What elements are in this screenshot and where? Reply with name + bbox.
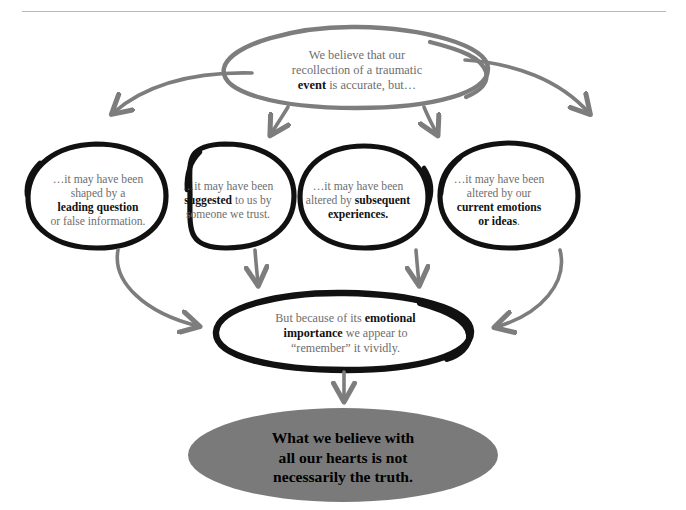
arrow-subsequent-to-convergence: [416, 250, 419, 284]
arrow-to-suggested: [271, 107, 288, 134]
branch-node-4-ellipse: [440, 143, 578, 248]
arrow-leading-question-to-convergence: [117, 250, 198, 326]
top-node-ellipse: [224, 27, 488, 108]
diagram-canvas: We believe that our recollection of a tr…: [0, 0, 686, 510]
branch-node-2-ellipse: [187, 144, 294, 248]
arrow-suggested-to-convergence: [255, 250, 258, 284]
branch-node-1-ellipse: [27, 144, 166, 248]
convergence-node-ellipse: [216, 293, 471, 370]
arrow-to-subsequent: [424, 107, 437, 134]
arrow-current-emotions-to-convergence: [496, 250, 561, 327]
branch-node-3-ellipse: [300, 146, 431, 248]
summary-node-ellipse: [188, 408, 498, 502]
diagram-shapes: [0, 0, 686, 510]
